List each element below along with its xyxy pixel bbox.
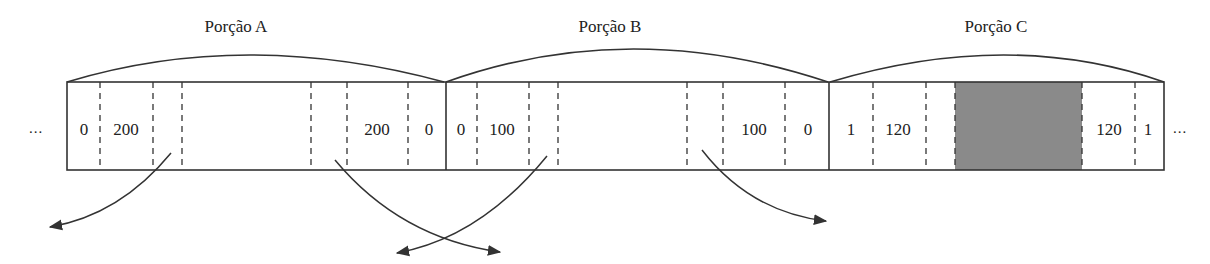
diagram-graphics: [0, 0, 1210, 264]
cell-value: 120: [1096, 120, 1122, 140]
diagram-canvas: Porção A Porção B Porção C ... ... 0 200…: [0, 0, 1210, 264]
cell-value: 0: [80, 120, 89, 140]
portion-c-title: Porção C: [965, 17, 1028, 37]
shaded-region: [955, 82, 1082, 170]
cell-value: 0: [804, 120, 813, 140]
ellipsis-left: ...: [29, 120, 43, 137]
cell-value: 1: [847, 120, 856, 140]
arrow-a-right: [335, 160, 500, 252]
portion-b-brace: [446, 49, 828, 82]
portion-a-brace: [67, 55, 444, 82]
cell-value: 200: [113, 120, 139, 140]
cell-value: 0: [457, 120, 466, 140]
cell-value: 100: [741, 120, 767, 140]
portion-c-brace: [830, 55, 1164, 82]
portion-b-title: Porção B: [579, 17, 642, 37]
portion-a-title: Porção A: [205, 17, 268, 37]
cell-value: 0: [425, 120, 434, 140]
arrow-b-right: [702, 150, 826, 221]
cell-value: 1: [1144, 120, 1153, 140]
cell-value: 120: [885, 120, 911, 140]
cell-value: 200: [364, 120, 390, 140]
ellipsis-right: ...: [1173, 120, 1187, 137]
cell-value: 100: [489, 120, 515, 140]
